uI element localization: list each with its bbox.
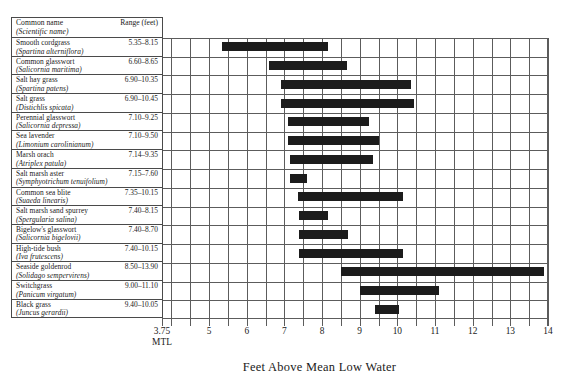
cell-range: 7.35–10.15 xyxy=(125,189,158,198)
x-tick-label-sub: MTL xyxy=(152,337,172,348)
tick-mark xyxy=(247,319,248,326)
table-row: Common sea blite(Suaeda linearis)7.35–10… xyxy=(12,188,162,207)
table-row: Perennial glasswort(Salicornia depressa)… xyxy=(12,113,162,132)
cell-scientific-name: (Spergularia salina) xyxy=(16,216,159,225)
x-tick-label-value: 5 xyxy=(207,326,212,336)
grid-hline xyxy=(162,188,548,189)
cell-range: 7.40–8.15 xyxy=(128,207,158,216)
tick-mark xyxy=(303,319,304,326)
grid-vline xyxy=(416,38,417,319)
x-tick-label: 3.75MTL xyxy=(152,326,172,348)
cell-range: 7.14–9.35 xyxy=(128,151,158,160)
range-bar xyxy=(288,117,369,126)
x-axis-title: Feet Above Mean Low Water xyxy=(0,360,561,375)
range-bar xyxy=(290,174,307,183)
header-scientific-name: (Scientific name) xyxy=(16,28,159,37)
x-tick-label: 7 xyxy=(282,326,287,337)
x-tick-label: 10 xyxy=(393,326,402,337)
tick-mark xyxy=(416,319,417,326)
tick-mark xyxy=(547,319,548,326)
tick-mark xyxy=(322,319,323,326)
x-tick-label-value: 3.75 xyxy=(154,326,170,336)
tick-mark xyxy=(510,319,511,326)
grid-vline xyxy=(190,38,191,319)
grid-hline xyxy=(162,94,548,95)
grid-vline xyxy=(548,38,549,319)
range-bar xyxy=(375,305,399,314)
tick-mark xyxy=(548,319,549,326)
cell-range: 7.10–9.25 xyxy=(128,114,158,123)
cell-scientific-name: (Symphyotrichum tenuifolium) xyxy=(16,178,159,187)
range-bar xyxy=(341,267,544,276)
cell-range: 8.50–13.90 xyxy=(125,263,158,272)
cell-scientific-name: (Limonium carolinianum) xyxy=(16,141,159,150)
table-row: Smooth cordgrass(Spartina alterniflora)5… xyxy=(12,38,162,57)
tick-mark xyxy=(492,319,493,326)
table-row: Sea lavender(Limonium carolinianum)7.10–… xyxy=(12,131,162,150)
cell-scientific-name: (Spartina alterniflora) xyxy=(16,48,159,57)
table-row: Salt grass(Distichlis spicata)6.90–10.45 xyxy=(12,94,162,113)
x-tick-label-value: 9 xyxy=(357,326,362,336)
range-bar xyxy=(298,192,403,201)
grid-vline xyxy=(492,38,493,319)
table-header-row: Common name (Scientific name) Range (fee… xyxy=(12,18,162,38)
tick-mark xyxy=(190,319,191,326)
x-tick-label: 8 xyxy=(320,326,325,337)
x-tick-label: 14 xyxy=(543,326,552,337)
cell-scientific-name: (Juncus gerardii) xyxy=(16,309,159,318)
x-tick-label-value: 7 xyxy=(282,326,287,336)
grid-vline xyxy=(247,38,248,319)
range-bar xyxy=(290,155,373,164)
plot-area xyxy=(162,38,548,319)
cell-scientific-name: (Distichlis spicata) xyxy=(16,104,159,113)
x-tick-label: 11 xyxy=(431,326,440,337)
x-tick-label: 6 xyxy=(244,326,249,337)
grid-hline xyxy=(162,300,548,301)
tick-mark xyxy=(162,319,163,326)
grid-hline xyxy=(162,225,548,226)
cell-scientific-name: (Iva frutescens) xyxy=(16,253,159,262)
table-row: Marsh orach(Atriplex patula)7.14–9.35 xyxy=(12,150,162,169)
cell-scientific-name: (Solidago sempervirens) xyxy=(16,272,159,281)
tick-mark xyxy=(341,319,342,326)
x-tick-label-value: 6 xyxy=(244,326,249,336)
grid-hline xyxy=(162,169,548,170)
cell-range: 9.00–11.10 xyxy=(125,282,158,291)
x-tick-label: 12 xyxy=(468,326,477,337)
grid-hline xyxy=(162,113,548,114)
grid-vline xyxy=(529,38,530,319)
range-bar xyxy=(281,99,415,108)
cell-range: 7.10–9.50 xyxy=(128,132,158,141)
grid-vline xyxy=(473,38,474,319)
cell-scientific-name: (Panicum virgatum) xyxy=(16,291,159,300)
salt-marsh-elevation-range-chart: Common name (Scientific name) Range (fee… xyxy=(0,0,561,385)
tick-mark xyxy=(360,319,361,326)
cell-range: 7.40–8.70 xyxy=(128,226,158,235)
x-tick-label: 5 xyxy=(207,326,212,337)
table-row: Black grass(Juncus gerardii)9.40–10.05 xyxy=(12,300,162,319)
table-row: Switchgrass(Panicum virgatum)9.00–11.10 xyxy=(12,281,162,300)
x-axis-tick-labels: 3.75MTL567891011121314 xyxy=(0,326,561,352)
cell-range: 6.90–10.35 xyxy=(125,76,158,85)
range-bar xyxy=(360,286,439,295)
table-row: Seaside goldenrod(Solidago sempervirens)… xyxy=(12,262,162,281)
cell-scientific-name: (Salicornia depressa) xyxy=(16,122,159,131)
table-row: Salt marsh aster(Symphyotrichum tenuifol… xyxy=(12,169,162,188)
grid-hline xyxy=(162,38,548,39)
range-bar xyxy=(299,230,348,239)
x-tick-label: 13 xyxy=(506,326,515,337)
grid-hline xyxy=(162,75,548,76)
table-row: Salt marsh sand spurrey(Spergularia sali… xyxy=(12,206,162,225)
tick-mark xyxy=(379,319,380,326)
plot-border-vline xyxy=(547,38,548,319)
range-bar xyxy=(299,211,327,220)
cell-scientific-name: (Salicornia bigelovii) xyxy=(16,234,159,243)
grid-vline xyxy=(209,38,210,319)
cell-range: 7.40–10.15 xyxy=(125,245,158,254)
range-bar xyxy=(288,136,378,145)
grid-hline xyxy=(162,150,548,151)
grid-hline xyxy=(162,132,548,133)
x-tick-label-value: 14 xyxy=(543,326,552,336)
tick-mark xyxy=(209,319,210,326)
tick-mark xyxy=(228,319,229,326)
